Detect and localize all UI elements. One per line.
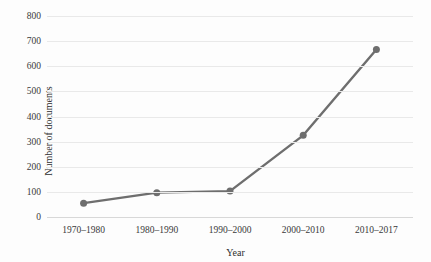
x-tick-label: 1990–2000 [209, 225, 252, 235]
gridline-400 [47, 117, 413, 118]
y-tick-label: 100 [27, 187, 41, 197]
data-point-marker [373, 46, 380, 53]
gridline-600 [47, 66, 413, 67]
gridline-200 [47, 167, 413, 168]
series-line [84, 49, 377, 203]
y-tick-label: 300 [27, 137, 41, 147]
data-point-marker [300, 132, 307, 139]
gridline-800 [47, 16, 413, 17]
gridline-700 [47, 41, 413, 42]
x-tick-label: 2010–2017 [355, 225, 398, 235]
y-tick-label: 500 [27, 86, 41, 96]
x-tick-label: 1970–1980 [62, 225, 105, 235]
plot-area: 01002003004005006007008001970–19801980–1… [47, 16, 413, 217]
y-tick-label: 200 [27, 162, 41, 172]
y-tick-label: 600 [27, 61, 41, 71]
gridline-100 [47, 192, 413, 193]
data-point-marker [80, 200, 87, 207]
x-tick-label: 1980–1990 [135, 225, 178, 235]
y-tick-label: 0 [36, 212, 41, 222]
gridline-0 [47, 217, 413, 218]
gridline-500 [47, 91, 413, 92]
y-tick-label: 700 [27, 36, 41, 46]
chart-figure: Number of documents 01002003004005006007… [0, 0, 431, 262]
y-tick-label: 800 [27, 11, 41, 21]
gridline-300 [47, 142, 413, 143]
y-tick-label: 400 [27, 112, 41, 122]
x-tick-label: 2000–2010 [282, 225, 325, 235]
x-axis-title: Year [0, 247, 431, 258]
